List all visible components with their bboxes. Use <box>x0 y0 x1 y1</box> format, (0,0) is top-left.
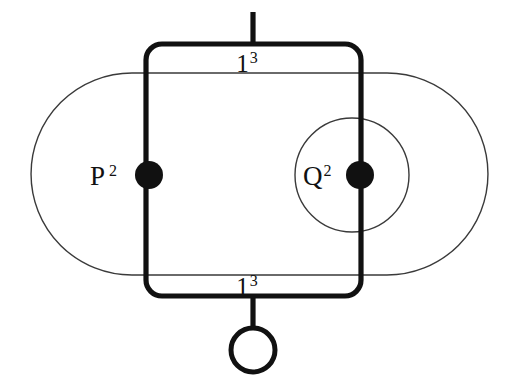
p-node-label-base: P <box>90 161 105 191</box>
p-node-label: P2 <box>90 161 117 191</box>
top-edge-label-base: 1 <box>236 50 249 77</box>
p-node-label-exponent: 2 <box>109 162 117 179</box>
top-edge-label-exponent: 3 <box>250 49 258 66</box>
q-node-label-base: Q <box>303 161 323 191</box>
q-node <box>346 161 374 189</box>
bottom-edge-label-exponent: 3 <box>250 272 258 289</box>
q-node-label-exponent: 2 <box>324 162 332 179</box>
bottom-edge-label-base: 1 <box>236 273 249 300</box>
knot-diagram: P2 Q2 13 13 <box>0 0 518 382</box>
diagram-canvas: P2 Q2 13 13 <box>0 0 518 382</box>
p-node <box>135 161 163 189</box>
open-node <box>231 328 275 372</box>
q-node-label: Q2 <box>303 161 332 191</box>
